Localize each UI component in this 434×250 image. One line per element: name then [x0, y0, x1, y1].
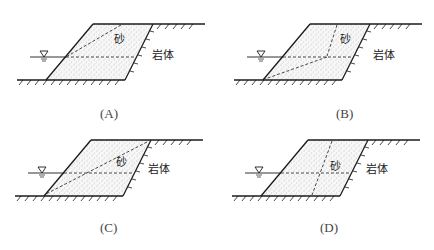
sand-label-b: 砂 [340, 30, 351, 46]
rock-label-b: 岩体 [373, 46, 395, 62]
sand-label-a: 砂 [114, 30, 125, 46]
caption-c: (C) [100, 220, 117, 236]
panel-d [232, 140, 420, 201]
sand-label-c: 砂 [116, 153, 127, 169]
panel-c [15, 140, 203, 201]
slope-diagrams [0, 0, 434, 250]
rock-label-c: 岩体 [148, 160, 170, 176]
sand-label-d: 砂 [330, 157, 341, 173]
rock-label-d: 岩体 [366, 160, 388, 176]
rock-label-a: 岩体 [152, 46, 174, 62]
caption-d: (D) [320, 220, 338, 236]
caption-b: (B) [336, 106, 353, 122]
panel-a [17, 24, 205, 85]
caption-a: (A) [100, 106, 118, 122]
